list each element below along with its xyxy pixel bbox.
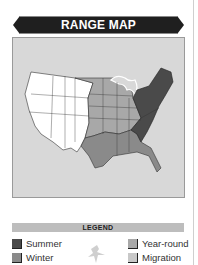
winter-swatch [12,253,22,263]
us-map-icon [13,38,184,197]
northeast-region [131,68,173,142]
legend-label: Summer [26,238,62,249]
bird-silhouette-icon [85,243,107,265]
legend-label: Migration [142,252,181,263]
summer-swatch [12,239,22,249]
range-map-banner: RANGE MAP [13,16,184,34]
migration-swatch [128,253,138,263]
range-map [12,37,185,198]
western-region [25,72,93,152]
legend-label: Winter [26,252,53,263]
legend-item-summer: Summer [12,238,62,249]
page-title: RANGE MAP [61,18,136,32]
legend-header: LEGEND [12,223,184,232]
legend-title: LEGEND [83,224,114,231]
year-round-swatch [128,239,138,249]
southern-region [81,130,161,172]
legend-label: Year-round [142,238,189,249]
legend-item-migration: Migration [128,252,181,263]
legend-item-year-round: Year-round [128,238,189,249]
legend-item-winter: Winter [12,252,53,263]
page-divider [193,0,194,265]
